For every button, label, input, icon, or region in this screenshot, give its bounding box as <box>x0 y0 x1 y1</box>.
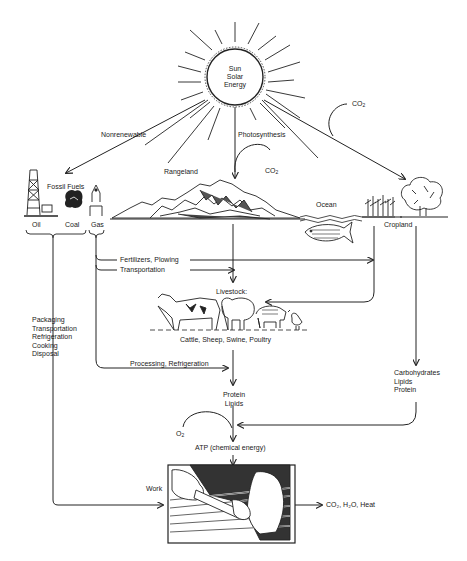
livestock-title: Livestock: <box>216 288 247 297</box>
ocean-label: Ocean <box>316 201 337 210</box>
o2-label: O2 <box>176 430 184 440</box>
animal-nutrients-label: Protein Lipids <box>218 391 250 408</box>
consumer-to-work-arrow <box>53 500 163 505</box>
cropland-arrow <box>264 100 405 179</box>
co2-top-label: CO2 <box>352 100 365 110</box>
rangeland-mountains-icon <box>110 180 305 219</box>
tree-icon <box>400 177 448 217</box>
transportation-label: Transportation <box>120 266 165 275</box>
fert-branch <box>96 255 117 260</box>
sun-label-line3: Energy <box>215 81 255 89</box>
crops-icon <box>362 195 402 217</box>
co2-loop-top <box>329 104 347 136</box>
o2-loop <box>183 412 232 428</box>
gas-label: Gas <box>91 221 104 230</box>
crop-nutrients-label: Carbohydrates Lipids Protein <box>394 369 440 395</box>
gas-brace <box>89 230 104 238</box>
consumer-uses-label: Packaging Transportation Refrigeration C… <box>32 316 77 359</box>
nonrenewable-label: Nonrenewable <box>101 131 146 140</box>
sun-icon <box>145 22 318 163</box>
fertilizers-plowing-label: Fertilizers, Plowing <box>120 256 179 265</box>
outputs-label: CO₂, H₂O, Heat <box>326 501 375 510</box>
coal-label: Coal <box>65 221 79 230</box>
coal-icon <box>65 190 83 208</box>
cropland-label: Cropland <box>384 221 412 230</box>
rangeland-label: Rangeland <box>164 168 198 177</box>
atp-label: ATP (chemical energy) <box>195 444 266 453</box>
sun-label-line2: Solar <box>215 73 255 81</box>
sun-label-line1: Sun <box>215 65 255 73</box>
crop-nutrients-to-atp-arrow <box>238 402 416 425</box>
co2-rangeland-label: CO2 <box>265 167 278 177</box>
processing-refrigeration-label: Processing, Refrigeration <box>130 360 209 369</box>
oil-derrick-icon <box>24 170 58 216</box>
fuels-brace <box>26 230 86 238</box>
photosynthesis-label: Photosynthesis <box>238 131 285 140</box>
sun-label: Sun Solar Energy <box>215 65 255 89</box>
transport-branch <box>96 265 117 270</box>
oil-label: Oil <box>32 221 41 230</box>
gas-tank-icon <box>90 185 102 216</box>
fossil-fuels-label: Fossil Fuels <box>47 183 84 192</box>
livestock-animals-icon <box>150 294 310 330</box>
livestock-caption: Cattle, Sheep, Swine, Poultry <box>180 336 271 345</box>
work-hands-icon <box>168 465 295 543</box>
fish-icon <box>305 222 353 243</box>
work-label: Work <box>146 485 162 494</box>
